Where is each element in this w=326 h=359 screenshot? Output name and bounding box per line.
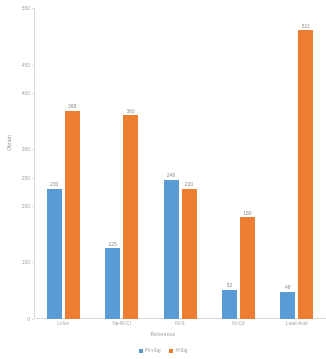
bar-group: 125360 — [92, 8, 150, 319]
bar-h-stg-ni-s[interactable]: 230 — [182, 189, 197, 319]
category-label: Lead-Acid — [268, 321, 326, 326]
category-label: Ni-S — [151, 321, 209, 326]
legend-swatch-icon — [169, 349, 173, 353]
y-axis-title: Obtain — [6, 118, 12, 168]
bar-chart: Obtain Reference 0100200250300400450550 … — [0, 0, 326, 359]
bar-value-label: 52 — [227, 282, 233, 288]
bar-value-label: 511 — [302, 23, 310, 29]
legend-label: PV+Stg — [145, 348, 161, 353]
bar-value-label: 360 — [126, 108, 134, 114]
legend-label: H-Stg — [175, 348, 187, 353]
category-label: Li-Ion — [34, 321, 92, 326]
bar-pv-stg-na-ni-cl[interactable]: 125 — [105, 248, 120, 319]
bar-pv-stg-lead-acid[interactable]: 48 — [280, 292, 295, 319]
bar-group: 52180 — [209, 8, 267, 319]
bar-h-stg-na-ni-cl[interactable]: 360 — [123, 115, 138, 319]
bar-h-stg-ni-cd[interactable]: 180 — [240, 217, 255, 319]
plot-area: 0100200250300400450550 23036812536024623… — [34, 8, 326, 319]
chart-legend: PV+StgH-Stg — [0, 348, 326, 353]
bar-pv-stg-ni-s[interactable]: 246 — [164, 180, 179, 319]
legend-item[interactable]: H-Stg — [169, 348, 187, 353]
bar-value-label: 125 — [108, 241, 116, 247]
bar-pv-stg-ni-cd[interactable]: 52 — [222, 290, 237, 319]
category-label: Na-Ni-Cl — [92, 321, 150, 326]
legend-swatch-icon — [139, 349, 143, 353]
bar-h-stg-li-ion[interactable]: 368 — [65, 111, 80, 319]
y-axis-tick-mark — [32, 319, 34, 320]
x-axis-title: Reference — [0, 331, 326, 337]
bar-group: 246230 — [151, 8, 209, 319]
x-axis-category-labels: Li-IonNa-Ni-ClNi-SNi-CdLead-Acid — [34, 321, 326, 326]
bar-group: 48511 — [268, 8, 326, 319]
category-label: Ni-Cd — [209, 321, 267, 326]
bar-value-label: 230 — [50, 181, 58, 187]
legend-item[interactable]: PV+Stg — [139, 348, 161, 353]
bar-pv-stg-li-ion[interactable]: 230 — [47, 189, 62, 319]
bar-h-stg-lead-acid[interactable]: 511 — [298, 30, 313, 319]
bar-value-label: 246 — [167, 172, 175, 178]
bar-value-label: 48 — [285, 284, 291, 290]
bar-value-label: 368 — [68, 103, 76, 109]
bar-groups: 2303681253602462305218048511 — [34, 8, 326, 319]
bar-value-label: 230 — [185, 181, 193, 187]
bar-group: 230368 — [34, 8, 92, 319]
bar-value-label: 180 — [243, 210, 251, 216]
